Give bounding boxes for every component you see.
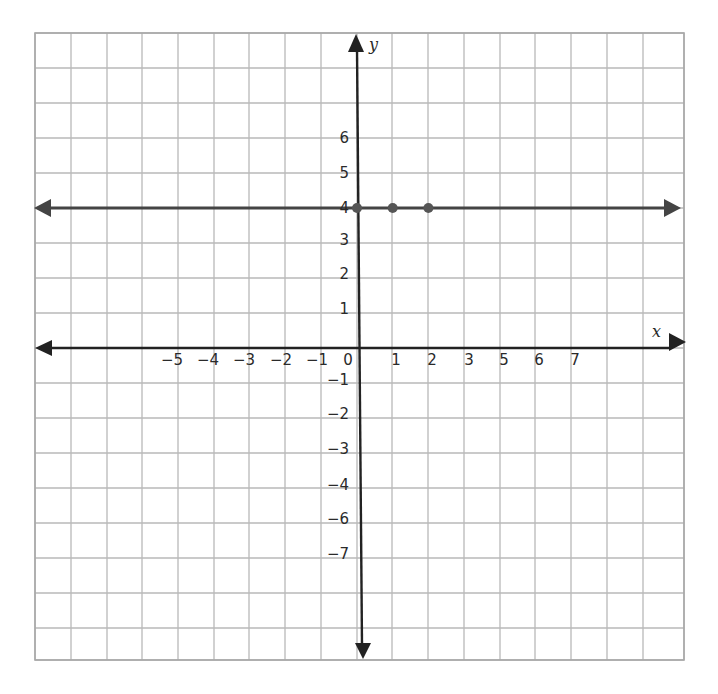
axes xyxy=(35,34,686,659)
x-tick-labels: −5−4−3−2−10123567 xyxy=(161,351,580,369)
y-tick-label: 1 xyxy=(339,300,349,318)
x-tick-label: −5 xyxy=(161,351,183,369)
x-tick-label: 6 xyxy=(534,351,544,369)
y-tick-label: −4 xyxy=(327,476,349,494)
x-tick-label: −3 xyxy=(233,351,255,369)
x-tick-label: 3 xyxy=(464,351,474,369)
y-tick-label: −6 xyxy=(327,510,349,528)
y-tick-label: −7 xyxy=(327,545,349,563)
y-tick-label: 6 xyxy=(339,129,349,147)
y-tick-label: 3 xyxy=(339,231,349,249)
x-tick-label: −1 xyxy=(306,351,328,369)
y-tick-labels: 654321−1−2−3−4−6−7 xyxy=(327,129,349,563)
data-point xyxy=(388,203,398,213)
x-tick-label: −2 xyxy=(270,351,292,369)
x-axis-label: x xyxy=(652,322,661,341)
y-tick-label: −2 xyxy=(327,405,349,423)
line-right-arrow-icon xyxy=(664,199,681,217)
y-axis-label: y xyxy=(368,35,379,54)
data-point xyxy=(352,203,362,213)
x-tick-label: −4 xyxy=(197,351,219,369)
x-tick-label: 5 xyxy=(499,351,509,369)
x-axis-left-arrow-icon xyxy=(35,340,52,356)
x-tick-label: 0 xyxy=(343,351,353,369)
x-tick-label: 2 xyxy=(427,351,437,369)
y-tick-label: 5 xyxy=(339,164,349,182)
line-left-arrow-icon xyxy=(34,199,51,217)
x-tick-label: 7 xyxy=(570,351,580,369)
y-tick-label: 4 xyxy=(339,199,349,217)
y-tick-label: −1 xyxy=(327,371,349,389)
data-point xyxy=(423,203,433,213)
y-axis-up-arrow-icon xyxy=(348,34,364,52)
x-tick-label: 1 xyxy=(391,351,401,369)
coordinate-plane: −5−4−3−2−10123567 654321−1−2−3−4−6−7 x y xyxy=(0,0,718,694)
y-tick-label: 2 xyxy=(339,265,349,283)
y-tick-label: −3 xyxy=(327,440,349,458)
